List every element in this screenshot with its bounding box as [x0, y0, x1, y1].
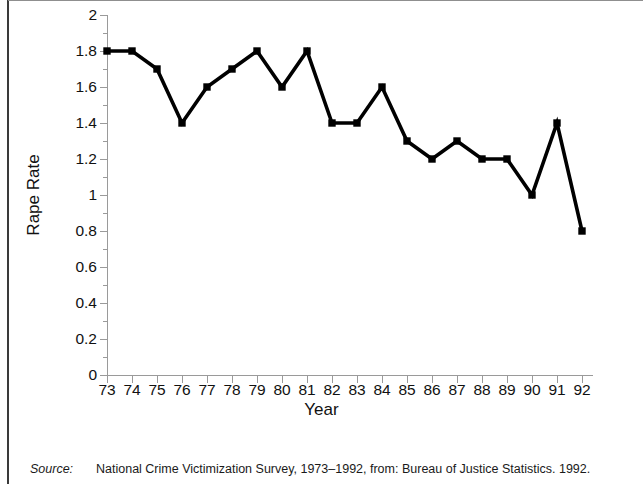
data-point-marker [128, 47, 135, 54]
data-point-marker [428, 155, 435, 162]
data-point-marker [378, 83, 385, 90]
data-point-marker [303, 47, 310, 54]
data-point-marker [103, 47, 110, 54]
y-axis-title: Rape Rate [24, 154, 44, 235]
data-point-marker [503, 155, 510, 162]
data-point-marker [478, 155, 485, 162]
data-point-marker [153, 65, 160, 72]
data-point-marker [578, 227, 585, 234]
figure-page: 00.20.40.60.811.21.41.61.82 737475767778… [0, 0, 643, 484]
data-point-marker [328, 119, 335, 126]
rape-rate-line-series [0, 0, 643, 440]
data-point-marker [528, 191, 535, 198]
data-point-marker [228, 65, 235, 72]
data-point-marker [553, 119, 560, 126]
source-caption: Source:National Crime Victimization Surv… [30, 462, 590, 476]
source-text: National Crime Victimization Survey, 197… [96, 462, 590, 476]
data-point-marker [403, 137, 410, 144]
data-point-marker [178, 119, 185, 126]
data-point-marker [253, 47, 260, 54]
chart-figure: 00.20.40.60.811.21.41.61.82 737475767778… [0, 0, 643, 440]
series-line [107, 51, 582, 231]
data-point-marker [203, 83, 210, 90]
data-point-marker [353, 119, 360, 126]
x-axis-title: Year [0, 400, 643, 420]
source-label: Source: [30, 462, 96, 476]
data-point-marker [453, 137, 460, 144]
data-point-marker [278, 83, 285, 90]
